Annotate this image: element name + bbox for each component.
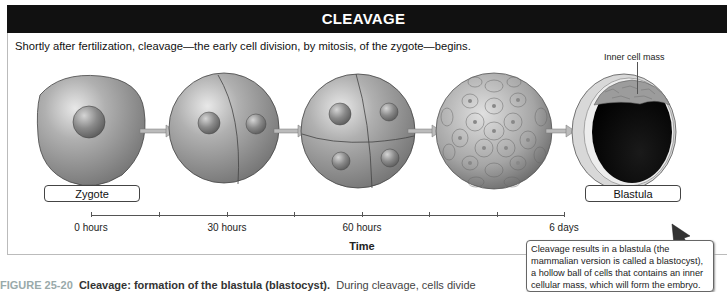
morula-embryo bbox=[436, 73, 552, 189]
figure-title: Cleavage: formation of the blastula (bla… bbox=[79, 279, 330, 291]
figure-number: FIGURE 25-20 bbox=[0, 279, 73, 291]
inner-cell-mass-pointer bbox=[637, 62, 638, 94]
timeline-tick bbox=[294, 212, 295, 217]
tick-label-30-hours: 30 hours bbox=[208, 222, 247, 233]
timeline-tick bbox=[159, 212, 160, 217]
figure-text: During cleavage, cells divide bbox=[336, 279, 475, 291]
timeline-tick bbox=[91, 212, 92, 217]
timeline-tick bbox=[564, 212, 565, 217]
timeline-title: Time bbox=[349, 240, 374, 252]
timeline-tick bbox=[362, 212, 363, 217]
timeline-tick bbox=[429, 212, 430, 217]
four-cell-embryo bbox=[301, 74, 415, 188]
tick-label-6-days: 6 days bbox=[549, 222, 578, 233]
inner-cell-mass-label: Inner cell mass bbox=[604, 52, 665, 62]
tick-label-60-hours: 60 hours bbox=[343, 222, 382, 233]
blastula-label: Blastula bbox=[585, 185, 681, 202]
tick-label-0-hours: 0 hours bbox=[74, 222, 107, 233]
blastula-embryo bbox=[572, 74, 676, 190]
zygote-cell bbox=[37, 75, 145, 185]
zygote-label: Zygote bbox=[44, 185, 140, 202]
timeline-tick bbox=[227, 212, 228, 217]
two-cell-embryo bbox=[169, 73, 279, 184]
figure-caption: FIGURE 25-20 Cleavage: formation of the … bbox=[0, 279, 476, 291]
timeline-tick bbox=[497, 212, 498, 217]
blastula-callout: Cleavage results in a blastula (the mamm… bbox=[526, 240, 714, 292]
timeline-axis bbox=[91, 215, 565, 216]
